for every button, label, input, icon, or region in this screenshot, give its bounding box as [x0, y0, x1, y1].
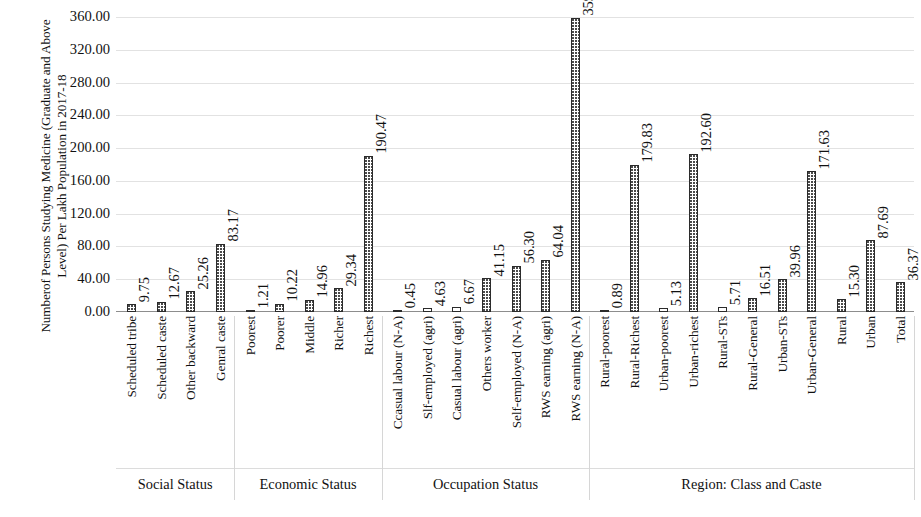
gridline — [116, 50, 914, 51]
bar-value-label: 5.13 — [669, 281, 683, 306]
y-axis-tick-label: 280.00 — [36, 75, 110, 90]
x-axis-tick-label: Poorer — [273, 316, 286, 351]
bar-value-label: 5.71 — [728, 280, 742, 305]
bar — [157, 302, 166, 312]
gridline — [116, 181, 914, 182]
group-separator — [234, 316, 235, 500]
y-axis-tick-label: 80.00 — [36, 238, 110, 253]
bar — [275, 304, 284, 312]
bar — [718, 307, 727, 312]
x-axis-tick-label: Rural-Richest — [628, 316, 641, 389]
group-label: Occupation Status — [382, 477, 589, 491]
gridline — [116, 148, 914, 149]
bar — [482, 278, 491, 312]
bar-value-label: 14.96 — [315, 265, 329, 297]
bar-chart: Numberof Persons Studying Medicine (Grad… — [0, 0, 921, 517]
bar — [246, 310, 255, 312]
bar — [600, 310, 609, 312]
bar-value-label: 359.08 — [581, 0, 595, 16]
bar — [334, 288, 343, 312]
x-axis-tick-label: Rural-poorest — [598, 316, 611, 388]
bar — [807, 171, 816, 312]
bar-value-label: 179.83 — [640, 123, 654, 163]
x-axis-tick-label: Scheduled caste — [155, 316, 168, 400]
x-axis-tick-label: Urban-richest — [687, 316, 700, 388]
bar — [127, 304, 136, 312]
gridline — [116, 83, 914, 84]
x-axis-tick-label: Ccasual labour (N-A) — [391, 316, 404, 429]
x-axis-tick-label: Others worker — [480, 316, 493, 391]
plot-area: 9.7512.6725.2683.171.2110.2214.9629.3419… — [116, 17, 914, 312]
x-axis-tick-label: Genral caste — [214, 316, 227, 381]
gridline — [116, 115, 914, 116]
gridline — [116, 17, 914, 18]
group-separator — [914, 316, 915, 500]
group-band-divider — [116, 468, 914, 469]
x-axis-tick-label: Urban-STs — [776, 316, 789, 373]
group-separator — [589, 316, 590, 500]
x-axis-tick-label: Poorest — [244, 316, 257, 355]
x-axis-tick-label: Rural — [835, 316, 848, 345]
bar — [364, 156, 373, 312]
bar — [837, 299, 846, 312]
group-label: Region: Class and Caste — [589, 477, 914, 491]
bar-value-label: 29.34 — [344, 254, 358, 286]
x-axis-tick-label: Casual labour (agri) — [450, 316, 463, 420]
bar — [423, 308, 432, 312]
x-axis-tick-label: Rural-STs — [716, 316, 729, 369]
bar — [630, 165, 639, 312]
y-axis-tick-label: 240.00 — [36, 107, 110, 122]
bar-value-label: 56.30 — [522, 231, 536, 263]
group-label: Social Status — [116, 477, 234, 491]
bar-value-label: 15.30 — [847, 265, 861, 297]
x-axis-tick-label: Scheduled tribe — [125, 316, 138, 398]
y-axis-tick-label: 0.00 — [36, 304, 110, 319]
bar-value-label: 190.47 — [374, 114, 388, 154]
bar — [659, 308, 668, 312]
bar-value-label: 12.67 — [167, 267, 181, 299]
bar-value-label: 4.63 — [433, 281, 447, 306]
x-axis-tick-label: Richer — [332, 316, 345, 351]
x-axis-tick-label: Total — [894, 316, 907, 343]
bar — [186, 291, 195, 312]
bar — [571, 18, 580, 312]
bar — [216, 244, 225, 312]
bar — [689, 154, 698, 312]
y-axis-tick-labels: 360.00320.00280.00240.00200.00160.00120.… — [36, 17, 110, 312]
bar — [541, 260, 550, 312]
bar — [512, 266, 521, 312]
x-axis-tick-label: Richest — [362, 316, 375, 355]
bar-value-label: 64.04 — [551, 225, 565, 257]
bar — [393, 310, 402, 312]
bar-value-label: 87.69 — [876, 206, 890, 238]
bar-value-label: 192.60 — [699, 113, 713, 153]
bar-value-label: 16.51 — [758, 264, 772, 296]
y-axis-tick-label: 40.00 — [36, 271, 110, 286]
bar — [305, 300, 314, 312]
x-axis-tick-label: Slf-employed (agri) — [421, 316, 434, 419]
bar-value-label: 36.37 — [906, 248, 920, 280]
bar — [896, 282, 905, 312]
bar-value-label: 10.22 — [285, 269, 299, 301]
bar-value-label: 0.45 — [403, 283, 417, 308]
bar — [748, 298, 757, 312]
x-axis-tick-label: Self-employed (N-A) — [510, 316, 523, 428]
bar-value-label: 41.15 — [492, 244, 506, 276]
y-axis-tick-label: 360.00 — [36, 9, 110, 24]
bar-value-label: 25.26 — [196, 257, 210, 289]
x-axis-tick-labels: Scheduled tribeScheduled casteOther back… — [116, 316, 914, 468]
x-axis-tick-label: Other backward — [184, 316, 197, 400]
x-axis-tick-label: Rural-General — [746, 316, 759, 391]
bar-value-label: 0.89 — [610, 283, 624, 308]
bar-value-label: 171.63 — [817, 130, 831, 170]
x-axis-tick-label: RWS earning (N-A) — [569, 316, 582, 421]
bar-value-label: 6.67 — [462, 279, 476, 304]
y-axis-tick-label: 160.00 — [36, 173, 110, 188]
bar-value-label: 39.96 — [788, 245, 802, 277]
group-label: Economic Status — [234, 477, 382, 491]
x-axis-tick-label: Urban-poorest — [657, 316, 670, 392]
bar — [866, 240, 875, 312]
group-label-band: Social StatusEconomic StatusOccupation S… — [116, 468, 914, 500]
x-axis-tick-label: Urban-General — [805, 316, 818, 394]
x-axis-tick-label: RWS earning (agri) — [539, 316, 552, 418]
